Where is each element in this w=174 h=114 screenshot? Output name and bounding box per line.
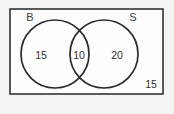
set-b-label: B	[26, 11, 33, 23]
intersection-count: 10	[73, 49, 85, 61]
outside-sets-count: 15	[145, 78, 157, 90]
venn-diagram-canvas: B S 15 10 20 15	[0, 0, 174, 114]
venn-diagram-figure: B S 15 10 20 15	[0, 0, 174, 114]
set-b-only-count: 15	[35, 49, 47, 61]
set-s-label: S	[129, 11, 136, 23]
set-s-only-count: 20	[111, 49, 123, 61]
